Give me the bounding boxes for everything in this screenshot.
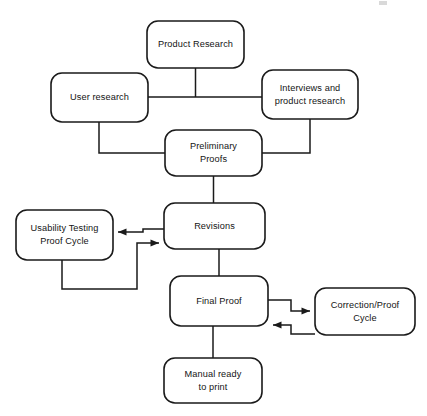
node-shape-preliminary-proofs[interactable] <box>165 130 262 176</box>
node-label-manual-ready-to-print-line1: Manual ready <box>185 369 242 379</box>
node-correction-proof-cycle[interactable]: Correction/ProofCycle <box>315 288 415 335</box>
node-label-correction-proof-cycle-line1: Correction/Proof <box>331 300 400 310</box>
node-label-revisions: Revisions <box>194 221 235 231</box>
connector-final-proof-to-correction-proof-cycle <box>268 300 310 315</box>
connector-user-research-to-preliminary-proofs <box>99 122 165 153</box>
arrow-head-icon <box>302 307 311 314</box>
node-label-usability-testing-proof-cycle-line1: Usability Testing <box>31 223 99 233</box>
node-label-user-research: User research <box>70 92 129 102</box>
flowchart-diagram: Product ResearchUser researchInterviews … <box>0 0 427 416</box>
node-revisions[interactable]: Revisions <box>164 203 265 249</box>
node-label-interviews-and-product-research-line2: product research <box>275 96 346 106</box>
node-preliminary-proofs[interactable]: PreliminaryProofs <box>165 130 262 176</box>
node-user-research[interactable]: User research <box>51 73 148 122</box>
connector-line <box>262 119 310 153</box>
node-label-final-proof: Final Proof <box>196 296 242 306</box>
node-label-preliminary-proofs-line2: Proofs <box>200 154 227 164</box>
node-final-proof[interactable]: Final Proof <box>170 276 268 326</box>
connector-revisions-to-usability-testing-proof-cycle <box>118 228 164 235</box>
node-shape-manual-ready-to-print[interactable] <box>164 358 262 403</box>
connector-line <box>99 122 165 153</box>
flowchart-canvas: Product ResearchUser researchInterviews … <box>0 0 427 416</box>
nodes-layer: Product ResearchUser researchInterviews … <box>16 21 415 403</box>
connector-correction-proof-cycle-to-final-proof <box>273 321 315 334</box>
node-shape-correction-proof-cycle[interactable] <box>315 288 415 335</box>
node-label-usability-testing-proof-cycle-line2: Proof Cycle <box>40 236 89 246</box>
node-label-interviews-and-product-research-line1: Interviews and <box>280 83 341 93</box>
node-shape-interviews-and-product-research[interactable] <box>262 70 358 119</box>
node-shape-usability-testing-proof-cycle[interactable] <box>16 210 113 260</box>
node-product-research[interactable]: Product Research <box>147 21 244 68</box>
node-manual-ready-to-print[interactable]: Manual readyto print <box>164 358 262 403</box>
arrow-head-icon <box>151 239 160 246</box>
node-usability-testing-proof-cycle[interactable]: Usability TestingProof Cycle <box>16 210 113 260</box>
arrow-head-icon <box>273 321 282 328</box>
node-label-manual-ready-to-print-line2: to print <box>199 382 228 392</box>
node-label-product-research: Product Research <box>158 39 233 49</box>
connector-interviews-and-product-research-to-preliminary-proofs <box>262 119 310 153</box>
scan-artifact <box>379 1 387 5</box>
arrow-head-icon <box>118 228 127 235</box>
node-label-correction-proof-cycle-line2: Cycle <box>353 313 376 323</box>
node-label-preliminary-proofs-line1: Preliminary <box>190 141 237 151</box>
node-interviews-and-product-research[interactable]: Interviews andproduct research <box>262 70 358 119</box>
